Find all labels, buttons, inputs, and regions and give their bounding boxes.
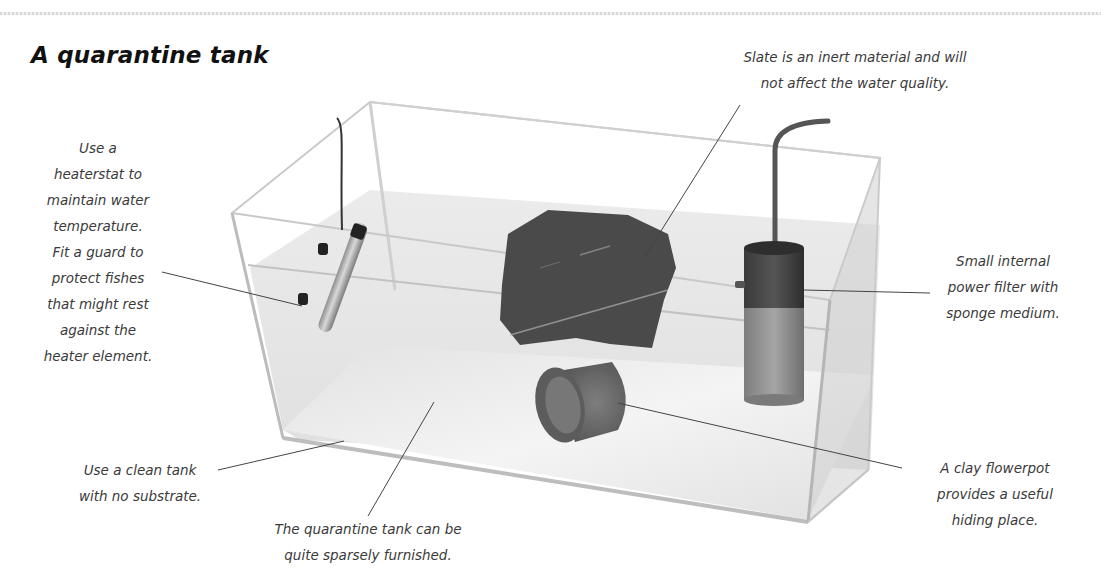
label-filter: Small internal power filter with sponge … <box>928 248 1078 326</box>
label-flowerpot: A clay flowerpot provides a useful hidin… <box>915 455 1075 533</box>
label-heaterstat: Use a heaterstat to maintain water tempe… <box>28 135 168 369</box>
label-clean-tank: Use a clean tank with no substrate. <box>60 457 220 509</box>
label-slate: Slate is an inert material and will not … <box>715 44 995 96</box>
label-sparse: The quarantine tank can be quite sparsel… <box>258 516 478 568</box>
rock-icon <box>500 210 676 348</box>
